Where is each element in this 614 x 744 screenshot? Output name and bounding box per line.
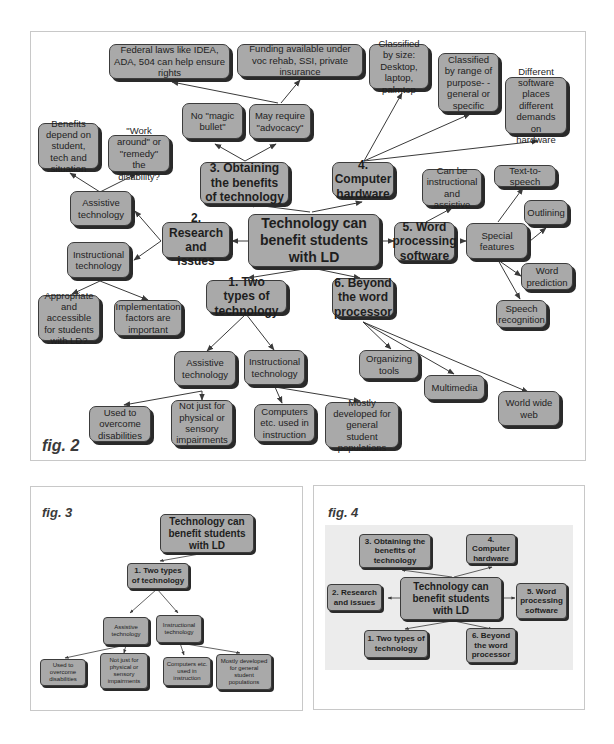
fig4-label: fig. 4	[328, 505, 358, 520]
fig4-topic-5-node[interactable]: 5. Word processing software	[516, 583, 567, 619]
fig4-topic-1-node[interactable]: 1. Two types of technology	[364, 630, 428, 658]
fig4-topic-2-node[interactable]: 2. Research and issues	[327, 584, 382, 611]
fig4-topic-3-node[interactable]: 3. Obtaining the benefits of technology	[359, 534, 431, 568]
fig4-topic-4-node[interactable]: 4. Computer hardware	[466, 534, 516, 564]
fig4-topic-6-node[interactable]: 6. Beyond the word processor	[466, 628, 516, 663]
fig4-connectors	[0, 0, 614, 744]
fig4-root-node[interactable]: Technology can benefit students with LD	[400, 577, 502, 620]
